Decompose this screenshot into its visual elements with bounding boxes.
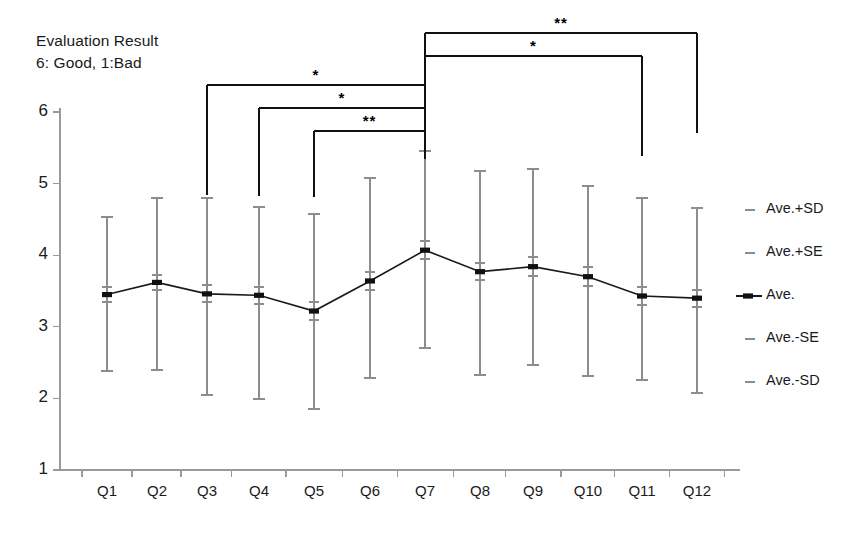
x-tick-label: Q2: [130, 482, 184, 499]
x-tick-label: Q7: [398, 482, 452, 499]
significance-star-label: **: [340, 113, 400, 128]
ave-data-point: [254, 293, 264, 298]
ave-data-point: [102, 292, 112, 297]
ave-data-point: [583, 274, 593, 279]
legend-item-label: Ave.: [766, 286, 795, 302]
y-tick-label: 3: [26, 316, 48, 336]
ave-data-point: [309, 308, 319, 313]
x-tick-label: Q3: [180, 482, 234, 499]
y-tick-label: 6: [26, 101, 48, 121]
ave-data-point: [152, 280, 162, 285]
x-tick-label: Q9: [506, 482, 560, 499]
x-tick-label: Q4: [232, 482, 286, 499]
legend-item-label: Ave.+SD: [766, 200, 823, 216]
x-tick-label: Q1: [80, 482, 134, 499]
ave-data-point: [692, 296, 702, 301]
ave-data-point: [637, 293, 647, 298]
legend-marker-square: [743, 293, 753, 298]
y-tick-label: 2: [26, 387, 48, 407]
ave-series-line: [107, 250, 697, 311]
x-tick-label: Q11: [615, 482, 669, 499]
y-tick-label: 5: [26, 173, 48, 193]
legend-item-label: Ave.-SD: [766, 372, 820, 388]
x-tick-label: Q10: [561, 482, 615, 499]
ave-data-point: [528, 264, 538, 269]
x-tick-label: Q8: [453, 482, 507, 499]
ave-data-point: [420, 248, 430, 253]
x-tick-label: Q5: [287, 482, 341, 499]
ave-data-point: [475, 269, 485, 274]
significance-star-label: *: [504, 38, 564, 53]
significance-star-label: *: [312, 90, 372, 105]
ave-data-point: [202, 291, 212, 296]
chart-figure: Evaluation Result 6: Good, 1:Bad 654321 …: [0, 0, 867, 536]
y-tick-label: 1: [26, 459, 48, 479]
significance-star-label: **: [531, 15, 591, 30]
plot-canvas: [0, 0, 867, 536]
x-tick-label: Q12: [670, 482, 724, 499]
x-tick-label: Q6: [343, 482, 397, 499]
legend-item-label: Ave.+SE: [766, 243, 823, 259]
legend-item-label: Ave.-SE: [766, 329, 819, 345]
ave-data-point: [365, 278, 375, 283]
y-tick-label: 4: [26, 244, 48, 264]
significance-star-label: *: [286, 67, 346, 82]
